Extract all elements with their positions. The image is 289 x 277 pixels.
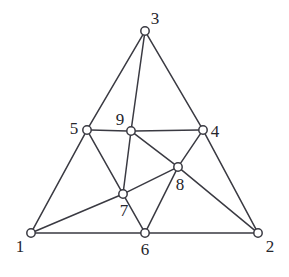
graph-node-label-3: 3	[151, 10, 160, 27]
graph-edge-9-8	[134, 133, 175, 164]
graph-diagram-figure: 123456789	[0, 0, 289, 277]
edge-layer	[33, 34, 256, 233]
graph-node-label-9: 9	[116, 111, 125, 128]
graph-node-4[interactable]	[199, 126, 207, 134]
graph-edge-4-8	[180, 133, 201, 164]
graph-node-3[interactable]	[141, 27, 149, 35]
graph-node-9[interactable]	[127, 127, 135, 135]
graph-node-label-2: 2	[266, 238, 275, 255]
graph-edge-5-7	[89, 133, 121, 190]
node-layer	[27, 27, 262, 237]
graph-edge-3-4	[147, 34, 201, 126]
graph-edge-9-7	[123, 135, 130, 190]
graph-node-label-1: 1	[16, 238, 25, 255]
graph-node-6[interactable]	[141, 229, 149, 237]
graph-edge-9-4	[135, 130, 199, 131]
graph-edge-8-2	[181, 169, 255, 230]
graph-canvas	[0, 0, 289, 277]
graph-edge-1-5	[33, 133, 85, 229]
graph-node-label-7: 7	[120, 202, 129, 219]
graph-node-label-5: 5	[70, 120, 79, 137]
graph-node-label-8: 8	[176, 176, 185, 193]
graph-node-8[interactable]	[174, 163, 182, 171]
graph-node-5[interactable]	[83, 126, 91, 134]
graph-edge-4-2	[205, 133, 256, 229]
graph-node-label-6: 6	[141, 241, 150, 258]
graph-node-1[interactable]	[27, 229, 35, 237]
graph-edge-1-7	[34, 195, 119, 231]
graph-node-7[interactable]	[119, 190, 127, 198]
graph-node-label-4: 4	[211, 123, 220, 140]
graph-edge-3-9	[132, 35, 145, 127]
graph-node-2[interactable]	[254, 229, 262, 237]
graph-edge-5-9	[91, 130, 127, 131]
graph-edge-6-8	[147, 170, 177, 229]
